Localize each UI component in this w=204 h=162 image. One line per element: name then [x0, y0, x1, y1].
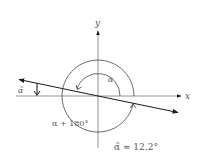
alpha-tilde-value-label: α̃ ≈ 12.2° — [114, 142, 158, 152]
alpha-plus-180-label: α + 180° — [52, 119, 88, 128]
alpha-tilde-label: α̃ — [18, 86, 24, 95]
angle-diagram: x y α α + 180° α̃ α̃ ≈ 1 — [0, 0, 204, 162]
alpha-label: α — [108, 75, 114, 84]
y-axis-label: y — [94, 18, 101, 28]
diagram-canvas: x y α α + 180° α̃ α̃ ≈ 1 — [0, 0, 204, 162]
alpha-tilde-indicator — [34, 83, 40, 96]
x-axis-label: x — [185, 91, 190, 101]
